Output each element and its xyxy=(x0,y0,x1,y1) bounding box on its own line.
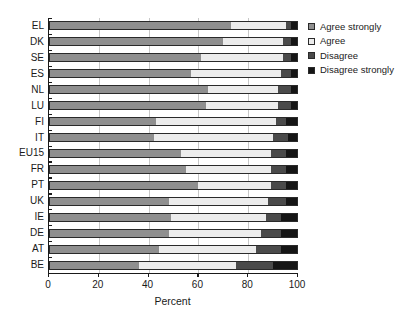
legend-item: Agree strongly xyxy=(308,20,414,33)
segment-agree xyxy=(154,133,274,142)
y-axis-tick xyxy=(48,241,52,242)
x-axis-tick xyxy=(48,273,49,277)
bar-row xyxy=(49,21,298,30)
segment-agree xyxy=(159,245,256,254)
y-axis-label-dk: DK xyxy=(30,37,44,47)
bar-row xyxy=(49,133,298,142)
legend-swatch-icon xyxy=(308,23,315,30)
y-axis-label-fr: FR xyxy=(31,164,44,174)
bar-row xyxy=(49,101,298,110)
y-axis-tick xyxy=(48,34,52,35)
y-axis-label-nl: NL xyxy=(31,85,44,95)
x-axis-tick-label: 60 xyxy=(192,279,203,290)
segment-agree xyxy=(186,165,271,174)
y-axis-tick xyxy=(48,98,52,99)
y-axis-tick xyxy=(48,82,52,83)
segment-agree-strongly xyxy=(49,181,198,190)
bar-row xyxy=(49,213,298,222)
x-axis-tick xyxy=(297,273,298,277)
y-axis-label-fi: FI xyxy=(35,117,44,127)
x-axis-tick-label: 20 xyxy=(92,279,103,290)
x-axis-tick xyxy=(247,273,248,277)
bar-row xyxy=(49,181,298,190)
segment-disagree-strongly xyxy=(286,149,298,158)
segment-agree xyxy=(208,85,278,94)
x-axis-tick-label: 0 xyxy=(45,279,51,290)
segment-agree xyxy=(171,213,266,222)
segment-agree-strongly xyxy=(49,53,201,62)
segment-agree-strongly xyxy=(49,149,181,158)
x-axis-tick-label: 40 xyxy=(142,279,153,290)
y-axis-label-lu: LU xyxy=(31,101,44,111)
y-axis-label-pt: PT xyxy=(31,180,44,190)
segment-agree xyxy=(231,21,286,30)
segment-disagree-strongly xyxy=(291,21,298,30)
bar-row xyxy=(49,165,298,174)
segment-agree xyxy=(156,117,276,126)
segment-agree xyxy=(139,261,236,270)
legend-item: Agree xyxy=(308,35,414,48)
segment-disagree xyxy=(266,213,281,222)
segment-disagree xyxy=(283,53,290,62)
segment-disagree-strongly xyxy=(288,133,298,142)
legend-swatch-icon xyxy=(308,52,315,59)
segment-agree-strongly xyxy=(49,229,169,238)
bar-row xyxy=(49,245,298,254)
legend-swatch-icon xyxy=(308,67,315,74)
segment-agree-strongly xyxy=(49,197,169,206)
bar-row xyxy=(49,53,298,62)
segment-agree xyxy=(191,69,281,78)
segment-disagree-strongly xyxy=(291,85,298,94)
x-axis-tick xyxy=(98,273,99,277)
segment-agree xyxy=(169,229,261,238)
segment-disagree xyxy=(273,133,288,142)
x-axis-tick xyxy=(197,273,198,277)
segment-agree xyxy=(201,53,283,62)
legend-swatch-icon xyxy=(308,38,315,45)
segment-disagree xyxy=(271,149,286,158)
segment-agree xyxy=(198,181,270,190)
plot-area xyxy=(48,18,298,273)
x-axis-tick-label: 100 xyxy=(289,279,306,290)
segment-disagree xyxy=(281,69,291,78)
stacked-bar-chart: ELDKSEESNLLUFIITEU15FRPTUKIEDEATBE 02040… xyxy=(0,0,416,314)
y-axis-tick xyxy=(48,18,52,19)
segment-disagree-strongly xyxy=(281,213,298,222)
bar-row xyxy=(49,261,298,270)
y-axis-tick xyxy=(48,50,52,51)
bar-row xyxy=(49,149,298,158)
bar-row xyxy=(49,69,298,78)
y-axis-labels: ELDKSEESNLLUFIITEU15FRPTUKIEDEATBE xyxy=(0,18,44,273)
legend-item: Disagree strongly xyxy=(308,64,414,77)
y-axis-label-ie: IE xyxy=(35,212,44,222)
segment-disagree-strongly xyxy=(273,261,298,270)
segment-agree xyxy=(181,149,271,158)
x-axis-title: Percent xyxy=(48,295,297,307)
segment-disagree-strongly xyxy=(286,181,298,190)
y-axis-label-es: ES xyxy=(31,69,44,79)
segment-agree-strongly xyxy=(49,213,171,222)
y-axis-tick xyxy=(48,257,52,258)
segment-agree-strongly xyxy=(49,85,208,94)
bar-row xyxy=(49,229,298,238)
y-axis-tick xyxy=(48,161,52,162)
segment-disagree-strongly xyxy=(291,101,298,110)
segment-agree-strongly xyxy=(49,165,186,174)
y-axis-label-eu15: EU15 xyxy=(19,148,44,158)
y-axis-tick xyxy=(48,225,52,226)
legend-label: Disagree xyxy=(320,51,358,61)
legend: Agree stronglyAgreeDisagreeDisagree stro… xyxy=(308,20,414,78)
segment-disagree-strongly xyxy=(286,197,298,206)
legend-label: Agree strongly xyxy=(320,22,381,32)
segment-disagree-strongly xyxy=(291,53,298,62)
y-axis-tick xyxy=(48,193,52,194)
segment-agree-strongly xyxy=(49,21,231,30)
segment-disagree xyxy=(283,37,290,46)
x-axis-tick xyxy=(148,273,149,277)
segment-disagree-strongly xyxy=(286,117,298,126)
y-axis-label-de: DE xyxy=(30,228,44,238)
y-axis-label-it: IT xyxy=(35,133,44,143)
legend-item: Disagree xyxy=(308,49,414,62)
segment-disagree xyxy=(236,261,273,270)
segment-disagree-strongly xyxy=(281,245,298,254)
